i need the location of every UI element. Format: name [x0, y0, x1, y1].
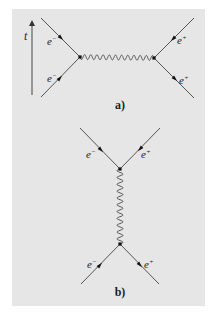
fermion-line-positron-incoming: e+	[120, 244, 159, 284]
photon-propagator	[117, 169, 123, 244]
vertex-dot	[118, 242, 121, 245]
particle-label: e−	[47, 35, 57, 47]
time-axis-label: t	[24, 29, 28, 43]
particle-label: e+	[144, 258, 154, 270]
diagram-caption: b)	[115, 285, 126, 299]
particle-label: e−	[87, 258, 97, 270]
diagram-a-annihilation: e−e−e+e+a)	[41, 18, 194, 112]
diagram-b-exchange: e−e+e−e+b)	[80, 128, 160, 299]
fermion-line-positron-outgoing: e+	[120, 128, 160, 169]
particle-label: e+	[179, 74, 189, 86]
particle-label: e−	[86, 148, 96, 160]
feynman-diagrams: t e−e−e+e+a) e−e+e−e+b)	[0, 0, 210, 313]
fermion-line-electron-incoming: e−	[41, 57, 80, 97]
fermion-line-electron-incoming: e−	[81, 244, 120, 284]
fermion-line-electron-outgoing: e−	[80, 128, 120, 169]
diagram-caption: a)	[115, 98, 125, 112]
fermion-line-electron-outgoing: e−	[41, 18, 80, 57]
fermion-line-positron-incoming: e+	[154, 58, 194, 98]
fermion-line-positron-outgoing: e+	[154, 18, 194, 58]
vertex-dot	[118, 167, 121, 170]
vertex-dot	[152, 56, 155, 59]
time-axis: t	[24, 23, 32, 95]
particle-label: e+	[177, 34, 187, 46]
vertex-dot	[78, 55, 81, 58]
photon-propagator	[80, 55, 154, 61]
particle-label: e+	[141, 148, 151, 160]
